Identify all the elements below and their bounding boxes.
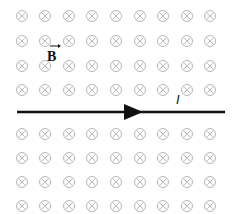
current-wire [0, 0, 236, 214]
current-direction-arrow-icon [124, 104, 143, 120]
magnetic-field-diagram: B I [0, 0, 236, 214]
magnetic-field-label: B [47, 49, 56, 65]
vector-arrowhead-icon [58, 44, 61, 48]
current-label: I [176, 92, 180, 107]
